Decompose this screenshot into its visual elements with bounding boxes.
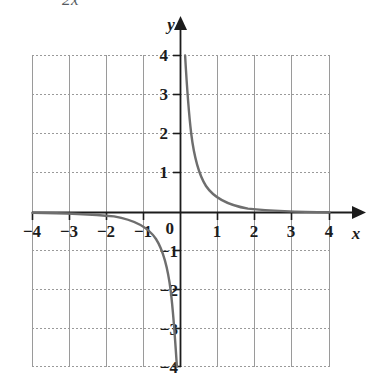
axes bbox=[32, 16, 366, 367]
xtick-label-neg3: −3 bbox=[60, 222, 78, 241]
xtick-label-2: 2 bbox=[250, 222, 259, 241]
ytick-label-4: 4 bbox=[160, 46, 169, 65]
xtick-label-3: 3 bbox=[287, 222, 296, 241]
x-tick-labels: −4 −3 −2 −1 1 2 3 4 bbox=[23, 222, 334, 241]
y-axis-label: y bbox=[165, 15, 175, 34]
y-tick-labels: 4 3 2 1 −1 −2 −3 −4 bbox=[160, 46, 179, 377]
ytick-label-2: 2 bbox=[160, 124, 169, 143]
graph-figure: −4 −3 −2 −1 1 2 3 4 4 3 2 1 −1 −2 −3 −4 … bbox=[0, 0, 384, 377]
xtick-label-1: 1 bbox=[213, 222, 222, 241]
ytick-label-3: 3 bbox=[160, 85, 169, 104]
xtick-label-neg2: −2 bbox=[97, 222, 115, 241]
x-axis-arrowhead bbox=[352, 206, 366, 219]
origin-label: 0 bbox=[166, 219, 175, 238]
xtick-label-neg4: −4 bbox=[23, 222, 42, 241]
x-axis-label: x bbox=[351, 224, 361, 243]
ytick-label-1: 1 bbox=[160, 163, 169, 182]
xtick-label-4: 4 bbox=[325, 222, 334, 241]
y-axis-arrowhead bbox=[174, 16, 187, 30]
